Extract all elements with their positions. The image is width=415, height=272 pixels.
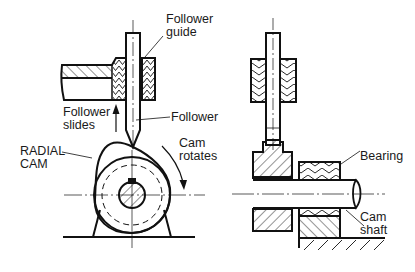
cam-rotates-label: Cam rotates xyxy=(179,137,217,163)
cam-follower-diagram: Follower guide Follower slides Follower … xyxy=(0,0,415,272)
label-line: shaft xyxy=(360,224,387,237)
radial-cam-label: RADIAL CAM xyxy=(20,145,65,171)
front-view xyxy=(61,20,205,248)
label-line: guide xyxy=(166,26,213,39)
label-line: slides xyxy=(63,119,110,132)
cam-shaft xyxy=(232,180,385,208)
bearing-label: Bearing xyxy=(360,150,403,163)
follower-slides-arrow-icon xyxy=(113,104,120,132)
follower-guide-label: Follower guide xyxy=(166,13,213,39)
label-line: rotates xyxy=(179,150,217,163)
follower-label: Follower xyxy=(171,111,218,124)
follower-rod xyxy=(126,20,140,150)
label-line: CAM xyxy=(20,158,65,171)
follower-foot xyxy=(253,140,293,231)
follower-slides-label: Follower slides xyxy=(63,106,110,132)
cam-shaft-label: Cam shaft xyxy=(360,211,387,237)
